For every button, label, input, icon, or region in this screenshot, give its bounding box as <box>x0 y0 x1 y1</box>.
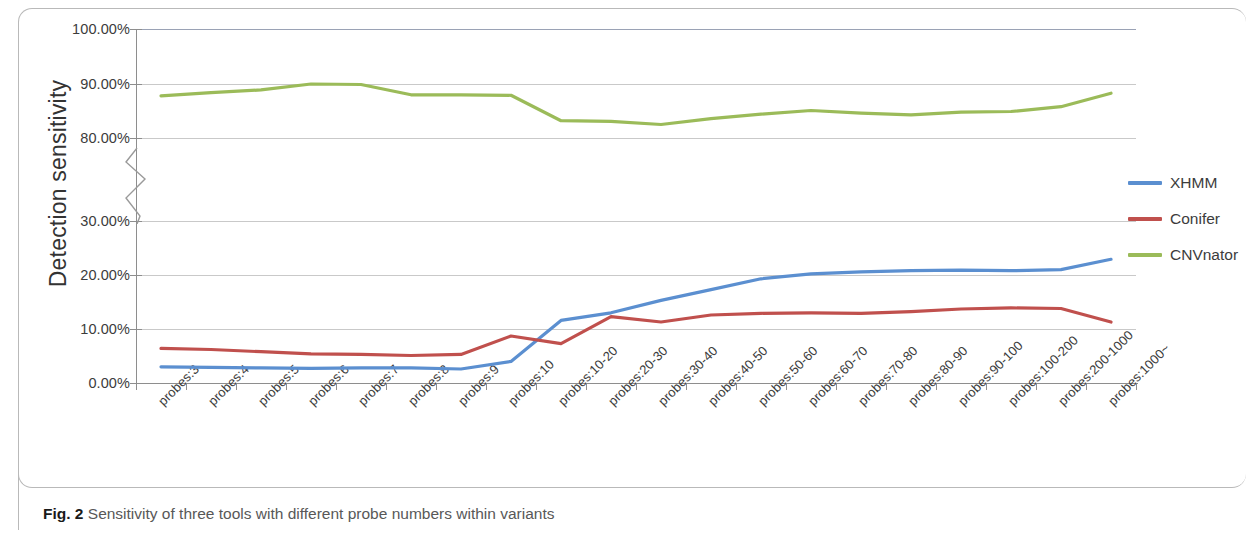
legend-item-label: XHMM <box>1170 174 1217 192</box>
chart-legend: XHMMConiferCNVnator <box>1128 165 1254 273</box>
y-axis-break-icon <box>120 148 154 224</box>
x-axis-tick-label: probes:3 <box>155 362 202 409</box>
legend-item-label: CNVnator <box>1170 246 1238 264</box>
legend-item-conifer[interactable]: Conifer <box>1128 201 1254 237</box>
y-axis-tick-label: 90.00% <box>38 76 130 92</box>
legend-item-cnvnator[interactable]: CNVnator <box>1128 237 1254 273</box>
gridline <box>136 84 1136 85</box>
x-axis-tick-label: probes:4 <box>205 362 252 409</box>
data-series-layer <box>0 0 1254 537</box>
x-axis-tick-label: probes:9 <box>455 362 502 409</box>
y-axis-tick-label: 100.00% <box>38 21 130 37</box>
x-axis-tick-mark <box>136 383 137 390</box>
gridline <box>136 329 1136 330</box>
figure-root: Detection sensitivity 0.00%10.00%20.00%3… <box>0 0 1254 537</box>
gridline <box>136 275 1136 276</box>
x-axis-tick-label: probes:7 <box>355 362 402 409</box>
figure-caption: Fig. 2 Sensitivity of three tools with d… <box>43 505 554 523</box>
series-line-conifer <box>161 308 1111 356</box>
legend-color-swatch-icon <box>1128 217 1162 221</box>
gridline <box>136 138 1136 139</box>
x-axis-tick-label: probes:5 <box>255 362 302 409</box>
y-axis-tick-label: 10.00% <box>38 321 130 337</box>
y-axis-tick-label: 0.00% <box>38 375 130 391</box>
y-axis-tick-label: 30.00% <box>38 213 130 229</box>
y-axis-tick-label: 80.00% <box>38 130 130 146</box>
gridline <box>136 29 1136 30</box>
legend-item-xhmm[interactable]: XHMM <box>1128 165 1254 201</box>
x-axis-tick-label: probes:6 <box>305 362 352 409</box>
legend-item-label: Conifer <box>1170 210 1220 228</box>
legend-color-swatch-icon <box>1128 253 1162 257</box>
caption-text: Sensitivity of three tools with differen… <box>83 505 554 522</box>
caption-label: Fig. 2 <box>43 505 83 522</box>
gridline <box>136 221 1136 222</box>
legend-color-swatch-icon <box>1128 181 1162 185</box>
x-axis-tick-label: probes:8 <box>405 362 452 409</box>
plot-area: Detection sensitivity 0.00%10.00%20.00%3… <box>0 0 1254 537</box>
y-axis-tick-label: 20.00% <box>38 267 130 283</box>
series-line-cnvnator <box>161 84 1111 125</box>
